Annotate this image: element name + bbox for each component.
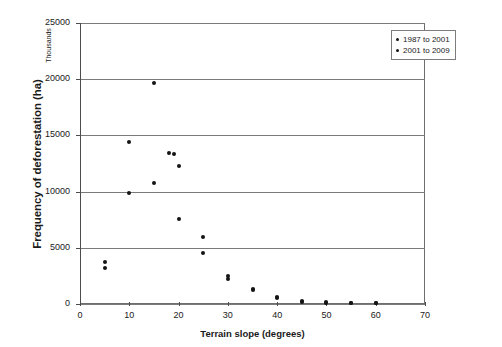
- x-tick-mark: [228, 302, 229, 306]
- data-point: [251, 288, 255, 292]
- y-tick-label: 10000: [26, 187, 70, 196]
- data-point: [103, 266, 107, 270]
- y-tick-label: 5000: [26, 243, 70, 252]
- data-point: [172, 152, 176, 156]
- x-tick-mark: [129, 302, 130, 306]
- gridline: [80, 248, 425, 249]
- data-point: [177, 164, 181, 168]
- x-tick-label: 60: [361, 311, 391, 320]
- gridline: [80, 23, 425, 24]
- y-tick-mark: [76, 23, 81, 24]
- legend-label: 2001 to 2009: [403, 47, 450, 55]
- y-tick-mark: [76, 248, 81, 249]
- x-tick-label: 20: [164, 311, 194, 320]
- x-tick-label: 70: [410, 311, 440, 320]
- legend-item: 1987 to 2001: [396, 34, 450, 45]
- x-tick-mark: [179, 302, 180, 306]
- x-tick-mark: [277, 302, 278, 306]
- y-tick-mark: [76, 192, 81, 193]
- x-axis-title: Terrain slope (degrees): [80, 328, 425, 339]
- y-tick-mark: [76, 135, 81, 136]
- x-tick-label: 10: [114, 311, 144, 320]
- y-tick-mark: [76, 79, 81, 80]
- y-tick-label: 0: [26, 299, 70, 308]
- legend-item: 2001 to 2009: [396, 45, 450, 56]
- legend-marker-icon: [396, 38, 399, 41]
- scatter-chart-figure: Frequency of deforestation (ha) Thousand…: [0, 0, 502, 347]
- x-tick-label: 0: [65, 311, 95, 320]
- legend-marker-icon: [396, 49, 399, 52]
- gridline: [80, 135, 425, 136]
- y-tick-label: 20000: [26, 74, 70, 83]
- x-tick-label: 50: [311, 311, 341, 320]
- data-point: [300, 300, 304, 304]
- x-tick-mark: [425, 302, 426, 306]
- x-tick-label: 40: [262, 311, 292, 320]
- chart-legend: 1987 to 2001 2001 to 2009: [391, 30, 456, 60]
- y-axis-line: [80, 23, 81, 305]
- gridline: [80, 192, 425, 193]
- y-tick-label: 25000: [26, 18, 70, 27]
- legend-label: 1987 to 2001: [403, 36, 450, 44]
- data-point: [177, 217, 181, 221]
- plot-area: [80, 23, 425, 304]
- x-tick-label: 30: [213, 311, 243, 320]
- data-point: [152, 181, 156, 185]
- y-tick-label: 15000: [26, 130, 70, 139]
- x-tick-mark: [80, 302, 81, 306]
- gridline: [80, 79, 425, 80]
